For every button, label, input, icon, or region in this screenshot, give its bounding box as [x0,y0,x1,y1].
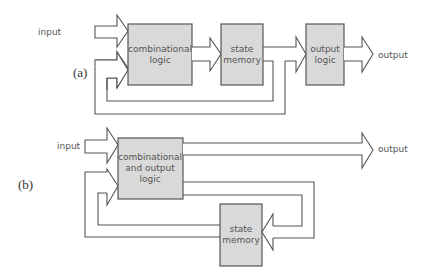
diagram-b-input-label: input [57,141,81,151]
diagram-b-output-arrow [183,133,373,168]
diagram-a-output-label: output [378,50,408,60]
diagram-b-combinational-output-logic-label-1: combinational [118,152,182,162]
diagram-b-state-memory-label-1: state [230,224,253,234]
diagram-a-state-memory-label-1: state [231,44,254,54]
diagram-b-tag: (b) [18,177,33,192]
diagram-a-combinational-logic-label-1: combinational [128,44,192,54]
diagram-a-output-arrow [344,37,373,72]
diagram-b-feedback-arrow [107,169,118,205]
diagram-a-state-memory-label-2: memory [223,55,261,65]
diagram-b-combinational-output-logic-label-2: and output [125,163,175,173]
diagram-b-state-memory-label-2: memory [222,235,260,245]
diagram-a-output-logic-label-2: logic [314,55,335,65]
diagram-a-input-label: input [38,27,62,37]
state-machine-diagrams: (a) input combinational logic state memo… [0,0,421,277]
diagram-a-comb-to-state-arrow [192,38,221,71]
diagram-b-state-memory-input-arrow [262,214,273,250]
diagram-a-output-logic-label-1: output [310,44,340,54]
diagram-a: (a) input combinational logic state memo… [38,15,408,114]
diagram-a-tag: (a) [73,65,87,80]
diagram-a-input-arrow [95,15,128,47]
diagram-a-combinational-logic-label-2: logic [149,55,170,65]
diagram-b-combinational-output-logic-label-3: logic [139,174,160,184]
diagram-b-output-label: output [378,144,408,154]
diagram-b-input-arrow [85,128,118,163]
diagram-b: (b) input combinational and output logic… [18,128,408,266]
